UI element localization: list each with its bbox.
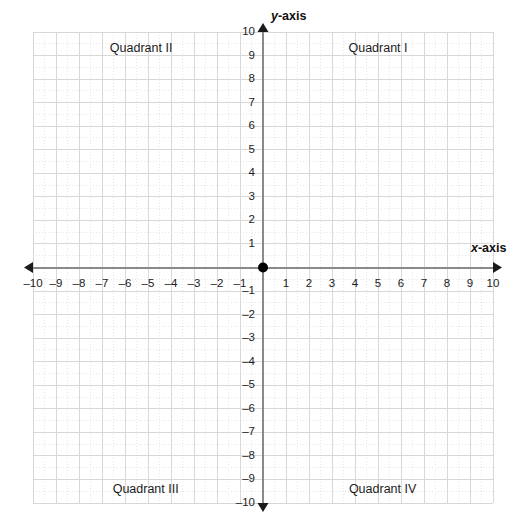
x-axis-arrow-right-icon [493, 262, 502, 273]
x-axis-tick-label: –8 [73, 278, 86, 290]
y-axis-tick-label: –6 [242, 403, 255, 415]
y-axis-tick-label: 8 [249, 73, 255, 85]
y-axis-tick-label: –3 [242, 332, 255, 344]
x-axis-tick-label: 5 [375, 278, 381, 290]
x-axis-tick-label: 9 [467, 278, 473, 290]
y-axis-title-variable: y [271, 9, 278, 23]
y-axis-tick-label: 3 [249, 191, 255, 203]
y-axis-tick-label: –10 [236, 497, 255, 509]
y-axis-tick-label: –8 [242, 450, 255, 462]
x-axis-tick-label: –6 [119, 278, 132, 290]
x-axis-title: x-axis [471, 242, 506, 255]
y-axis-tick-label: –4 [242, 356, 255, 368]
x-axis-tick-label: 3 [329, 278, 335, 290]
quadrant-4-label: Quadrant IV [349, 483, 416, 496]
y-axis-title-suffix: -axis [278, 9, 307, 23]
y-axis-tick-label: 4 [249, 168, 255, 180]
quadrant-1-label: Quadrant I [348, 42, 407, 55]
y-axis-tick-label: 9 [249, 50, 255, 62]
x-axis-tick-label: –5 [142, 278, 155, 290]
grid-and-axes [0, 0, 528, 528]
x-axis-tick-label: 8 [444, 278, 450, 290]
y-axis-tick-label: –9 [242, 474, 255, 486]
y-axis-tick-label: –2 [242, 309, 255, 321]
x-axis-tick-label: –10 [23, 278, 42, 290]
x-axis-tick-label: –9 [50, 278, 63, 290]
y-axis-tick-label: 5 [249, 144, 255, 156]
y-axis-tick-label: 6 [249, 120, 255, 132]
x-axis-tick-label: –2 [211, 278, 224, 290]
x-axis-tick-label: 1 [283, 278, 289, 290]
quadrant-2-label: Quadrant II [110, 42, 173, 55]
quadrant-3-label: Quadrant III [113, 483, 179, 496]
x-axis-tick-label: –7 [96, 278, 109, 290]
origin-point-marker [258, 263, 268, 273]
y-axis-arrow-down-icon [258, 503, 269, 512]
y-axis-tick-label: 10 [242, 26, 255, 38]
x-axis-tick-label: –4 [165, 278, 178, 290]
y-axis-arrow-up-icon [258, 23, 269, 32]
x-axis-arrow-left-icon [24, 262, 33, 273]
x-axis-title-variable: x [471, 241, 478, 255]
x-axis-tick-label: 2 [306, 278, 312, 290]
y-axis-title: y-axis [271, 10, 306, 23]
x-axis-tick-label: 7 [421, 278, 427, 290]
y-axis-tick-label: –5 [242, 380, 255, 392]
coordinate-plane: –10–9–8–7–6–5–4–3–2–11234567891010987654… [0, 0, 528, 528]
y-axis-tick-label: 1 [249, 238, 255, 250]
x-axis-tick-label: 10 [487, 278, 500, 290]
x-axis-tick-label: 4 [352, 278, 358, 290]
x-axis-tick-label: –3 [188, 278, 201, 290]
y-axis-tick-label: –7 [242, 427, 255, 439]
x-axis-tick-label: 6 [398, 278, 404, 290]
y-axis-tick-label: 2 [249, 215, 255, 227]
x-axis-title-suffix: -axis [478, 241, 507, 255]
y-axis-tick-label: –1 [242, 285, 255, 297]
y-axis-tick-label: 7 [249, 97, 255, 109]
